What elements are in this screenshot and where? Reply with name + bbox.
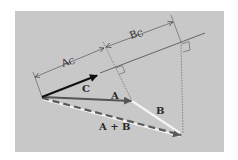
vector-sum-label: A + B <box>98 121 131 132</box>
vector-projection-diagram: AC BC C A B A + B <box>0 0 238 160</box>
vector-b-label: B <box>156 105 164 116</box>
vector-a-label: A <box>110 90 119 101</box>
vector-c-label: C <box>82 83 90 94</box>
